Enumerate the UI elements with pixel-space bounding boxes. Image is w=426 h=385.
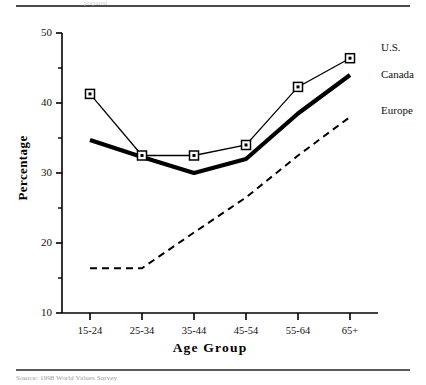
x-tick-label: 55-64 [271,325,325,336]
y-axis-ticks [56,33,62,313]
x-tick-label: 15-24 [63,325,117,336]
data-point-us [294,82,303,91]
legend-label-canada: Canada [381,68,414,80]
data-point-us [138,151,147,160]
x-axis-title: Age Group [60,340,360,356]
data-point-us [242,141,251,150]
y-tick-label: 20 [24,237,52,248]
chart-axes [62,33,378,313]
y-tick-label: 30 [24,167,52,178]
x-tick-label: 65+ [323,325,377,336]
y-tick-label: 10 [24,307,52,318]
bottom-rule [16,369,410,371]
y-tick-label: 40 [24,97,52,108]
legend-label-europe: Europe [381,104,413,116]
figure: prepared Percentage Age Group 1020304050… [0,0,426,385]
data-point-us [346,54,355,63]
source-note: Source: 1998 World Values Survey [16,374,117,382]
x-tick-label: 35-44 [167,325,221,336]
x-tick-label: 25-34 [115,325,169,336]
legend-label-u-s: U.S. [381,41,401,53]
chart-plot-area: Percentage Age Group 102030405015-2425-3… [0,0,426,385]
series-line-us [90,58,350,155]
x-tick-label: 45-54 [219,325,273,336]
series-line-canada [90,75,350,173]
x-axis-ticks [90,313,350,320]
y-tick-label: 50 [24,27,52,38]
data-point-us [190,151,199,160]
data-point-us [86,89,95,98]
